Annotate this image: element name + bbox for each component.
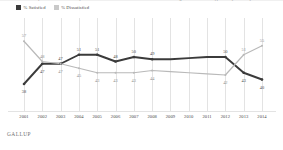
data-point — [78, 53, 81, 56]
data-label: 42 — [223, 80, 228, 85]
data-point — [114, 60, 117, 63]
data-label: 45 — [77, 73, 82, 78]
legend-label-satisfied: % Satisfied — [24, 5, 46, 10]
data-label: 49 — [150, 51, 155, 56]
data-point — [115, 72, 117, 74]
data-point — [261, 45, 263, 47]
plot-area: 3847475151485049504340574847454343434442… — [8, 18, 276, 112]
legend-label-dissatisfied: % Dissatisfied — [61, 5, 89, 10]
legend-item-dissatisfied[interactable]: % Dissatisfied — [54, 5, 90, 10]
x-tick-2002: 2002 — [38, 114, 47, 119]
x-tick-2008: 2008 — [147, 114, 156, 119]
x-tick-2004: 2004 — [74, 114, 83, 119]
data-point — [78, 67, 80, 69]
data-point — [224, 56, 227, 59]
data-label: 44 — [150, 75, 155, 80]
x-tick-2012: 2012 — [221, 114, 230, 119]
source-brand: GALLUP — [7, 131, 31, 137]
data-label: 55 — [260, 37, 265, 42]
x-tick-2003: 2003 — [56, 114, 65, 119]
data-label: 50 — [132, 49, 137, 54]
data-label: 40 — [260, 84, 265, 89]
data-label: 43 — [113, 77, 118, 82]
x-tick-2005: 2005 — [93, 114, 102, 119]
chart-legend: % Satisfied % Dissatisfied — [16, 5, 89, 10]
data-point — [96, 53, 99, 56]
chart-title: Next, we'd like to know how you feel abo… — [30, 0, 260, 1]
x-tick-2013: 2013 — [239, 114, 248, 119]
data-label: 47 — [58, 55, 63, 60]
x-tick-2014: 2014 — [257, 114, 266, 119]
data-point — [261, 78, 264, 81]
legend-swatch-satisfied — [16, 5, 21, 10]
data-label: 51 — [95, 46, 100, 51]
data-label: 47 — [58, 68, 63, 73]
data-point — [23, 40, 25, 42]
data-label: 51 — [77, 46, 82, 51]
data-point — [242, 71, 245, 74]
x-tick-2006: 2006 — [111, 114, 120, 119]
data-label: 38 — [22, 89, 27, 94]
legend-item-satisfied[interactable]: % Satisfied — [16, 5, 46, 10]
data-point — [133, 72, 135, 74]
data-label: 50 — [223, 49, 228, 54]
data-point — [60, 63, 62, 65]
data-point — [151, 58, 154, 61]
data-point — [133, 56, 136, 59]
x-tick-2009: 2009 — [166, 114, 175, 119]
data-point — [41, 62, 44, 65]
chart-figure: Next, we'd like to know how you feel abo… — [0, 0, 283, 150]
data-point — [23, 83, 26, 86]
x-tick-2007: 2007 — [129, 114, 138, 119]
data-label: 43 — [132, 77, 137, 82]
x-tick-2001: 2001 — [19, 114, 28, 119]
data-label: 51 — [241, 46, 246, 51]
legend-swatch-dissatisfied — [54, 5, 59, 10]
x-tick-2011: 2011 — [202, 114, 211, 119]
data-point — [41, 61, 43, 63]
data-point — [224, 74, 226, 76]
data-label: 43 — [241, 77, 246, 82]
x-tick-2010: 2010 — [184, 114, 193, 119]
data-label: 48 — [40, 53, 45, 58]
data-label: 57 — [22, 33, 27, 38]
data-point — [96, 72, 98, 74]
data-point — [243, 54, 245, 56]
x-axis-labels: 2001200220032004200520062007200820092010… — [8, 114, 276, 124]
data-point — [151, 70, 153, 72]
data-label: 47 — [40, 68, 45, 73]
series-lines — [8, 18, 276, 112]
data-label: 48 — [113, 53, 118, 58]
data-label: 43 — [95, 77, 100, 82]
